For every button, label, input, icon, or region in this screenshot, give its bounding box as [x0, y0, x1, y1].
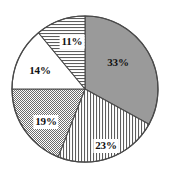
pie-slice-label-14: 14% [29, 65, 50, 76]
pie-chart-figure: 33%23%19%14%11% [0, 0, 171, 178]
pie-chart-canvas [0, 0, 171, 178]
pie-slice-label-19: 19% [33, 115, 58, 129]
pie-slice-label-23: 23% [93, 139, 118, 153]
pie-slice-label-33: 33% [107, 57, 128, 68]
pie-slice-label-11: 11% [60, 35, 85, 49]
